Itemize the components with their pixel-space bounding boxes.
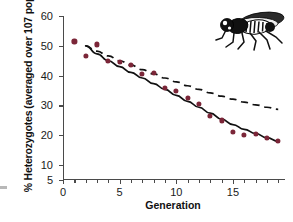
x-tick-label: 10 [170, 186, 182, 198]
x-tick-minor [222, 180, 223, 183]
x-tick-minor [97, 180, 98, 183]
x-axis-label: Generation [63, 199, 283, 211]
x-tick-minor [199, 180, 200, 183]
x-tick [63, 180, 64, 184]
solid-fit-line [86, 46, 279, 141]
y-axis-label-line1: % Heterozygotes [22, 111, 34, 193]
chart-figure: % Heterozygotes (averaged over 107 popul… [0, 0, 293, 222]
x-tick-minor [142, 180, 143, 183]
x-tick-label: 0 [60, 186, 66, 198]
edge-artifact [0, 186, 7, 189]
x-tick-minor [131, 180, 132, 183]
y-tick-label: 60 [41, 10, 53, 22]
x-tick-minor [278, 180, 279, 183]
x-tick-minor [188, 180, 189, 183]
x-tick [176, 180, 177, 184]
x-tick [120, 180, 121, 184]
y-tick-label: 50 [41, 40, 53, 52]
dashed-expectation-line [86, 46, 279, 110]
y-tick-label: 5 [47, 174, 53, 186]
x-tick-minor [256, 180, 257, 183]
y-tick-label: 10 [41, 159, 53, 171]
y-tick-label: 20 [41, 129, 53, 141]
x-tick-minor [74, 180, 75, 183]
x-tick-label: 5 [117, 186, 123, 198]
drosophila-fly-icon [214, 9, 288, 53]
x-tick-minor [244, 180, 245, 183]
x-tick [233, 180, 234, 184]
y-tick-label: 40 [41, 70, 53, 82]
x-tick-minor [154, 180, 155, 183]
x-tick-minor [86, 180, 87, 183]
x-tick-label: 15 [227, 186, 239, 198]
x-tick-minor [165, 180, 166, 183]
y-axis-label-line2: (averaged over 107 populations) [22, 0, 34, 109]
x-tick-minor [108, 180, 109, 183]
x-tick-minor [267, 180, 268, 183]
x-tick-minor [210, 180, 211, 183]
y-tick-label: 30 [41, 99, 53, 111]
